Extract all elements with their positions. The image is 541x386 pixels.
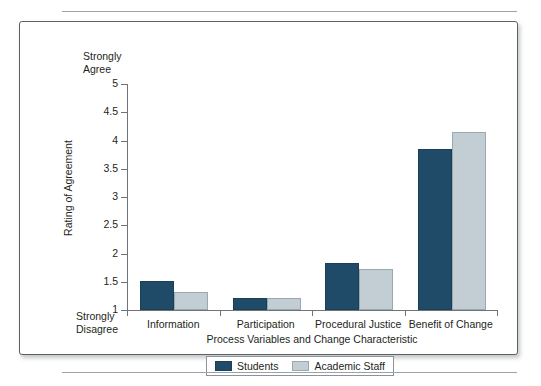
legend-item[interactable]: Students	[215, 360, 278, 372]
x-axis-category-label: Benefit of Change	[405, 318, 498, 330]
y-axis-tick-label: 2	[112, 247, 118, 259]
y-axis-tick-label: 3	[112, 190, 118, 202]
y-axis-tick: 2.5	[121, 225, 127, 226]
bar-group	[313, 84, 406, 310]
bar-group	[221, 84, 314, 310]
y-axis-tick: 1.5	[121, 282, 127, 283]
y-axis-tick-label: 2.5	[103, 218, 118, 230]
bar-students[interactable]	[325, 263, 359, 310]
bar-chart: Strongly Agree Strongly Disagree Rating …	[20, 22, 517, 354]
y-axis-tick: 5	[121, 84, 127, 85]
bar-academic-staff[interactable]	[267, 298, 301, 310]
bar-academic-staff[interactable]	[452, 132, 486, 310]
y-axis-tick: 3	[121, 197, 127, 198]
y-axis-tick-label: 3.5	[103, 162, 118, 174]
y-axis-tick-label: 4	[112, 134, 118, 146]
plot-area: 11.522.533.544.55 InformationParticipati…	[127, 84, 497, 310]
chart-legend: StudentsAcademic Staff	[206, 356, 394, 376]
x-axis-category-label: Information	[127, 318, 220, 330]
x-axis-tick	[127, 310, 128, 316]
bar-students[interactable]	[233, 298, 267, 310]
legend-swatch-students	[215, 361, 232, 371]
y-axis-tick: 3.5	[121, 169, 127, 170]
x-axis-title: Process Variables and Change Characteris…	[127, 333, 497, 345]
y-axis-tick: 4	[121, 141, 127, 142]
y-axis-tick: 2	[121, 254, 127, 255]
bar-groups	[128, 84, 498, 310]
y-axis-tick: 4.5	[121, 112, 127, 113]
y-axis-top-anchor-label: Strongly Agree	[83, 50, 122, 75]
y-axis-tick-label: 1.5	[103, 275, 118, 287]
legend-item[interactable]: Academic Staff	[292, 360, 384, 372]
bar-students[interactable]	[140, 281, 174, 310]
page-rule-bottom	[62, 372, 517, 373]
legend-swatch-academic-staff	[292, 361, 309, 371]
x-axis-tick	[220, 310, 221, 316]
page-rule-top	[62, 11, 517, 12]
x-axis-tick	[497, 310, 498, 316]
y-axis-title: Rating of Agreement	[62, 113, 74, 263]
y-axis-tick-label: 4.5	[103, 105, 118, 117]
bar-students[interactable]	[418, 149, 452, 310]
x-axis-tick	[405, 310, 406, 316]
x-axis-tick	[312, 310, 313, 316]
y-axis-tick-label: 5	[112, 77, 118, 89]
figure-frame: Strongly Agree Strongly Disagree Rating …	[19, 21, 518, 355]
bar-group	[406, 84, 499, 310]
x-axis-category-label: Procedural Justice	[312, 318, 405, 330]
x-axis-category-label: Participation	[220, 318, 313, 330]
bar-academic-staff[interactable]	[359, 269, 393, 310]
bar-group	[128, 84, 221, 310]
bar-academic-staff[interactable]	[174, 292, 208, 310]
legend-label: Students	[237, 360, 278, 372]
legend-label: Academic Staff	[314, 360, 384, 372]
y-axis-tick-label: 1	[112, 303, 118, 315]
